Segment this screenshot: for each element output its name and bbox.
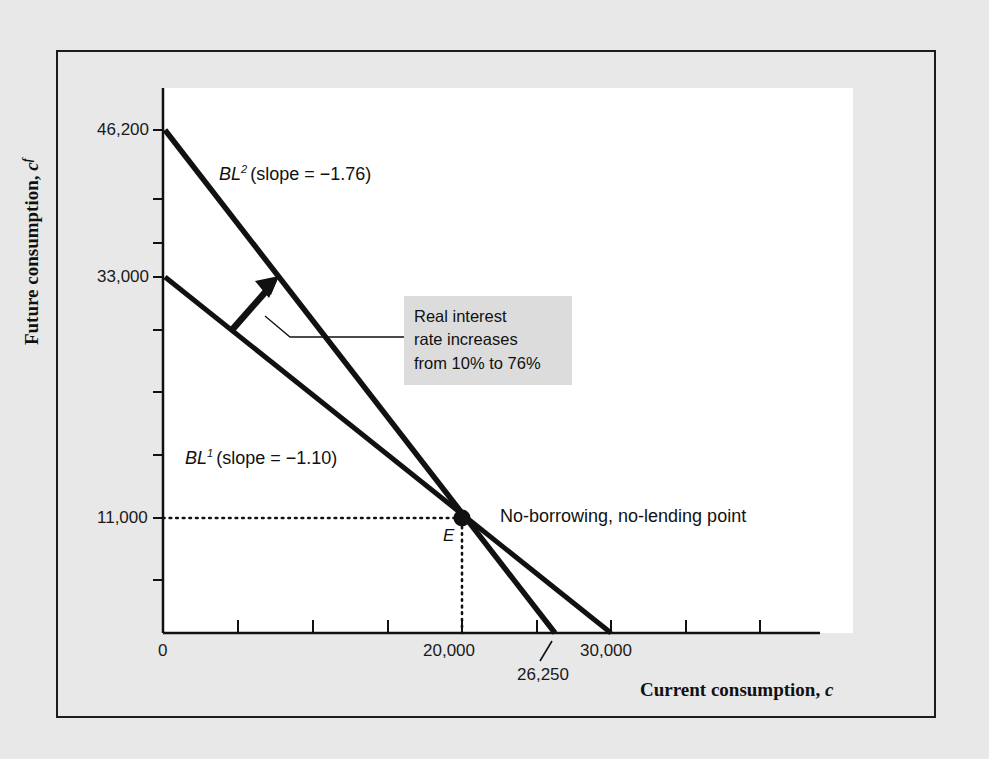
x-axis-title: Current consumption, c [640, 679, 833, 701]
x-axis-title-text: Current consumption, c [640, 679, 833, 700]
annotation-line-2: rate increases [414, 328, 562, 351]
tick-leader-26250 [540, 641, 552, 661]
y-axis-title-text: Future consumption, c [21, 162, 42, 345]
x-tick-label-30000: 30,000 [580, 641, 632, 661]
x-tick-label-26250: 26,250 [517, 665, 569, 685]
annotation-line-1: Real interest [414, 305, 562, 328]
figure-root: 46,200 33,000 11,000 0 20,000 26,250 30,… [0, 0, 989, 759]
curve-label-bl2-name: BL [219, 164, 241, 184]
y-axis-ticks [153, 130, 163, 580]
x-tick-label-20000: 20,000 [423, 641, 475, 661]
annotation-leader-line [265, 316, 404, 337]
curve-label-bl2-slope: (slope = −1.76) [250, 164, 371, 184]
curve-label-bl1-slope: (slope = −1.10) [216, 448, 337, 468]
annotation-callout: Real interest rate increases from 10% to… [404, 296, 572, 385]
x-tick-label-0: 0 [158, 641, 167, 661]
y-tick-label-33000: 33,000 [97, 267, 149, 287]
shift-arrow-icon [231, 276, 279, 331]
y-tick-label-46200: 46,200 [97, 120, 149, 140]
curve-label-bl1-name: BL [185, 448, 207, 468]
curve-label-bl2: BL2(slope = −1.76) [219, 163, 371, 185]
curve-label-bl1: BL1(slope = −1.10) [185, 447, 337, 469]
curve-label-bl2-superscript: 2 [241, 163, 247, 175]
x-axis-ticks [238, 620, 760, 633]
y-tick-label-11000: 11,000 [97, 508, 148, 528]
no-borrowing-point-label: No-borrowing, no-lending point [500, 506, 746, 527]
y-axis-title: Future consumption, cf [20, 158, 43, 345]
y-axis-title-superscript: f [20, 158, 34, 162]
equilibrium-point-label: E [443, 526, 454, 546]
equilibrium-point-marker [454, 510, 471, 527]
curve-label-bl1-superscript: 1 [207, 447, 213, 459]
annotation-line-3: from 10% to 76% [414, 352, 562, 375]
